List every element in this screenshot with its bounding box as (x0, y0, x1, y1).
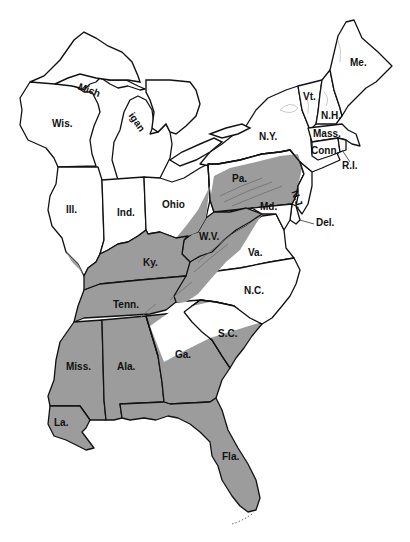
label-south-carolina: S.C. (218, 328, 238, 339)
label-indiana: Ind. (117, 207, 135, 218)
state-maine (330, 20, 392, 116)
label-tennessee: Tenn. (113, 299, 139, 310)
state-illinois (48, 167, 104, 276)
label-pennsylvania: Pa. (232, 173, 247, 184)
label-delaware: Del. (316, 217, 335, 228)
label-north-carolina: N.C. (244, 285, 264, 296)
label-illinois: Ill. (66, 204, 77, 215)
label-louisiana: La. (54, 417, 69, 428)
label-vermont: Vt. (303, 91, 316, 102)
label-virginia: Va. (248, 247, 263, 258)
label-new-york: N.Y. (259, 131, 278, 142)
label-georgia: Ga. (175, 349, 191, 360)
label-mississippi: Miss. (66, 361, 91, 372)
label-massachusetts: Mass. (313, 128, 341, 139)
label-new-hampshire: N.H. (321, 110, 341, 121)
label-connecticut: Conn. (311, 145, 340, 156)
label-ohio: Ohio (162, 199, 185, 210)
label-alabama: Ala. (117, 361, 136, 372)
label-maryland: Md. (260, 201, 277, 212)
label-maine: Me. (350, 57, 367, 68)
lake-huron (146, 80, 200, 134)
range-map: Me. Vt. N.H. Mass. Conn. R.I. N.Y. Pa. N… (0, 0, 410, 542)
label-florida: Fla. (222, 451, 239, 462)
label-west-virginia: W.V. (199, 231, 219, 242)
florida-keys (232, 514, 252, 524)
label-wisconsin: Wis. (52, 118, 73, 129)
label-rhode-island: R.I. (342, 160, 358, 171)
del-leader-line (300, 220, 314, 224)
label-kentucky: Ky. (143, 257, 158, 268)
